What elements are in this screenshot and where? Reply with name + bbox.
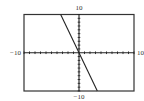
x-min-label: −10 xyxy=(10,49,21,57)
y-min-label: −10 xyxy=(74,93,85,101)
y-max-label: 10 xyxy=(76,4,84,12)
graph-plot: 10 −10 −10 10 xyxy=(0,0,144,100)
x-max-label: 10 xyxy=(137,49,144,57)
